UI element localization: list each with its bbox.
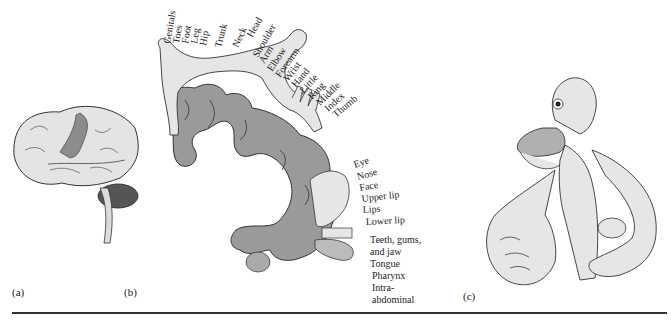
label-lips: Lips — [362, 203, 381, 215]
label-lower-lip: Lower lip — [366, 214, 406, 227]
face-profile — [310, 171, 349, 227]
panel-label-c: (c) — [463, 290, 475, 302]
label-hip: Hip — [197, 30, 210, 47]
panel-label-a: (a) — [12, 286, 24, 298]
bottom-rule — [12, 312, 667, 314]
label-teeth-gums: Teeth, gums, — [370, 234, 421, 246]
label-pharynx: Pharynx — [372, 270, 405, 282]
eye — [556, 102, 561, 107]
left-hand — [487, 170, 556, 285]
label-trunk: Trunk — [212, 22, 229, 48]
figure-canvas: Genitals Toes Foot Leg Hip Trunk Neck He… — [0, 0, 671, 320]
teeth-jaw — [322, 228, 352, 238]
intra-abdominal-region — [246, 252, 270, 272]
label-and-jaw: and jaw — [370, 246, 401, 258]
brain-illustration — [14, 106, 138, 243]
panel-label-b: (b) — [124, 286, 137, 298]
label-tongue: Tongue — [370, 258, 400, 270]
label-intra: Intra- — [372, 282, 394, 294]
label-abdominal: abdominal — [372, 294, 414, 306]
homunculus-labels-face: Eye Nose Face Upper lip Lips Lower lip — [352, 154, 405, 227]
homunculus-figure-c — [487, 78, 657, 285]
right-hand — [589, 150, 656, 277]
tongue — [315, 239, 353, 260]
lips-tongue — [517, 128, 565, 156]
torso-legs — [559, 145, 598, 280]
